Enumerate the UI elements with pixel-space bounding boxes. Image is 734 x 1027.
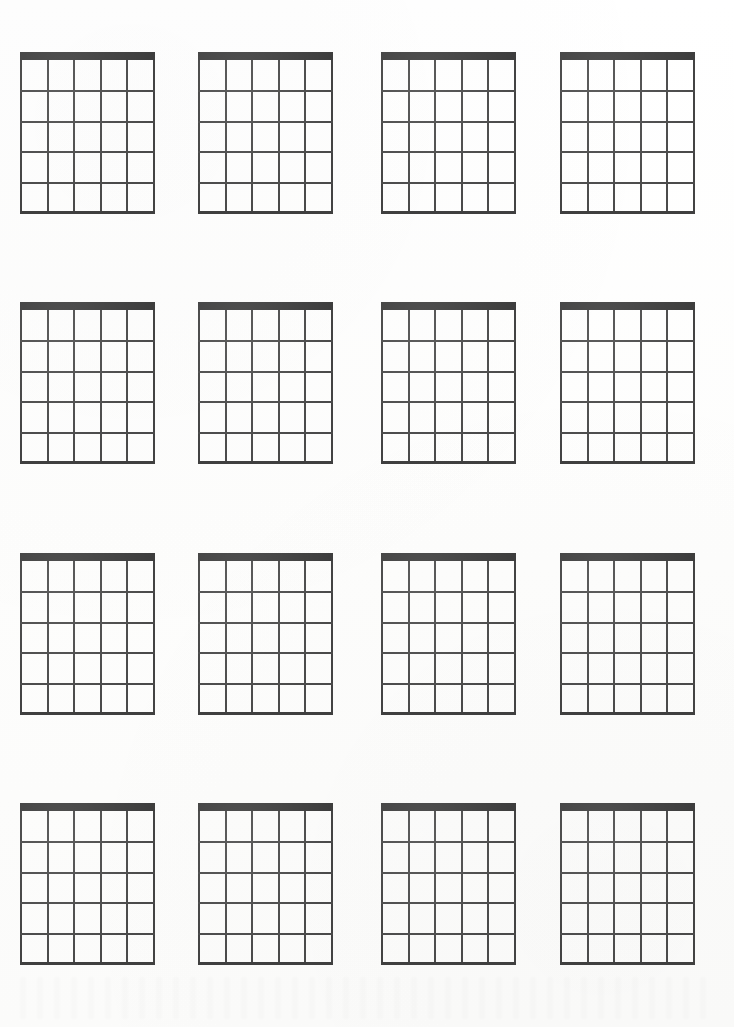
fret-line-bottom [198, 712, 333, 715]
string-line-1 [20, 811, 22, 965]
fret-line-bottom [198, 962, 333, 965]
chord-diagram-r4c2[interactable] [198, 803, 333, 965]
string-line-4 [100, 60, 102, 214]
fret-line-bottom [198, 461, 333, 464]
string-line-4 [278, 60, 280, 214]
fret-line-1 [198, 591, 333, 593]
string-line-4 [100, 811, 102, 965]
nut-bar [20, 803, 155, 811]
string-line-5 [126, 561, 128, 715]
fret-line-4 [198, 933, 333, 935]
string-line-1 [198, 811, 200, 965]
chord-diagram-r3c2[interactable] [198, 553, 333, 715]
fret-line-3 [560, 401, 695, 403]
fret-line-1 [560, 841, 695, 843]
fret-line-1 [381, 841, 516, 843]
fret-line-bottom [560, 211, 695, 214]
string-line-5 [304, 310, 306, 464]
string-line-4 [461, 60, 463, 214]
string-line-2 [47, 310, 49, 464]
nut-bar [198, 803, 333, 811]
string-line-3 [73, 561, 75, 715]
string-line-3 [73, 811, 75, 965]
chord-diagram-r1c1[interactable] [20, 52, 155, 214]
fretboard [560, 60, 695, 214]
fret-line-4 [20, 683, 155, 685]
string-line-4 [461, 561, 463, 715]
fretboard [20, 811, 155, 965]
fret-line-4 [560, 182, 695, 184]
fret-line-2 [560, 622, 695, 624]
string-line-4 [640, 60, 642, 214]
string-line-3 [251, 811, 253, 965]
fret-line-3 [20, 401, 155, 403]
string-line-2 [587, 310, 589, 464]
string-line-5 [126, 811, 128, 965]
fret-line-bottom [20, 962, 155, 965]
string-line-6 [153, 561, 155, 715]
fret-line-3 [198, 902, 333, 904]
string-line-5 [487, 310, 489, 464]
string-line-6 [514, 811, 516, 965]
fret-line-3 [20, 652, 155, 654]
string-line-6 [331, 561, 333, 715]
fret-line-1 [560, 90, 695, 92]
string-line-2 [47, 60, 49, 214]
string-line-1 [198, 561, 200, 715]
fretboard [198, 811, 333, 965]
fret-line-1 [381, 340, 516, 342]
chord-diagram-r2c2[interactable] [198, 302, 333, 464]
fret-line-bottom [381, 712, 516, 715]
chord-diagram-r3c1[interactable] [20, 553, 155, 715]
fret-line-2 [20, 622, 155, 624]
chord-diagram-r1c3[interactable] [381, 52, 516, 214]
string-line-6 [693, 561, 695, 715]
string-line-6 [153, 60, 155, 214]
string-line-1 [381, 811, 383, 965]
chord-diagram-r2c1[interactable] [20, 302, 155, 464]
fret-line-2 [560, 121, 695, 123]
fret-line-bottom [381, 211, 516, 214]
fretboard [560, 310, 695, 464]
fret-line-4 [198, 182, 333, 184]
fret-line-2 [198, 872, 333, 874]
fret-line-3 [381, 902, 516, 904]
fret-line-1 [560, 340, 695, 342]
fretboard [381, 811, 516, 965]
string-line-1 [560, 561, 562, 715]
nut-bar [381, 52, 516, 60]
chord-diagram-r2c3[interactable] [381, 302, 516, 464]
fret-line-2 [381, 622, 516, 624]
string-line-6 [693, 60, 695, 214]
string-line-2 [225, 60, 227, 214]
chord-diagram-r3c3[interactable] [381, 553, 516, 715]
string-line-5 [666, 561, 668, 715]
nut-bar [198, 553, 333, 561]
fret-line-3 [198, 652, 333, 654]
fret-line-1 [198, 340, 333, 342]
fretboard [560, 811, 695, 965]
fret-line-4 [20, 182, 155, 184]
string-line-3 [434, 60, 436, 214]
fret-line-4 [20, 933, 155, 935]
string-line-4 [278, 561, 280, 715]
fret-line-1 [381, 90, 516, 92]
string-line-1 [381, 60, 383, 214]
fret-line-3 [20, 151, 155, 153]
string-line-2 [47, 561, 49, 715]
fret-line-4 [381, 933, 516, 935]
chord-diagram-r1c4[interactable] [560, 52, 695, 214]
string-line-1 [20, 561, 22, 715]
chord-diagram-r4c1[interactable] [20, 803, 155, 965]
fret-line-1 [198, 841, 333, 843]
string-line-6 [331, 811, 333, 965]
chord-diagram-r2c4[interactable] [560, 302, 695, 464]
fret-line-4 [20, 432, 155, 434]
chord-diagram-r1c2[interactable] [198, 52, 333, 214]
fret-line-bottom [560, 712, 695, 715]
fret-line-3 [560, 151, 695, 153]
chord-diagram-r4c4[interactable] [560, 803, 695, 965]
chord-chart-sheet [0, 0, 734, 1027]
chord-diagram-r4c3[interactable] [381, 803, 516, 965]
chord-diagram-r3c4[interactable] [560, 553, 695, 715]
